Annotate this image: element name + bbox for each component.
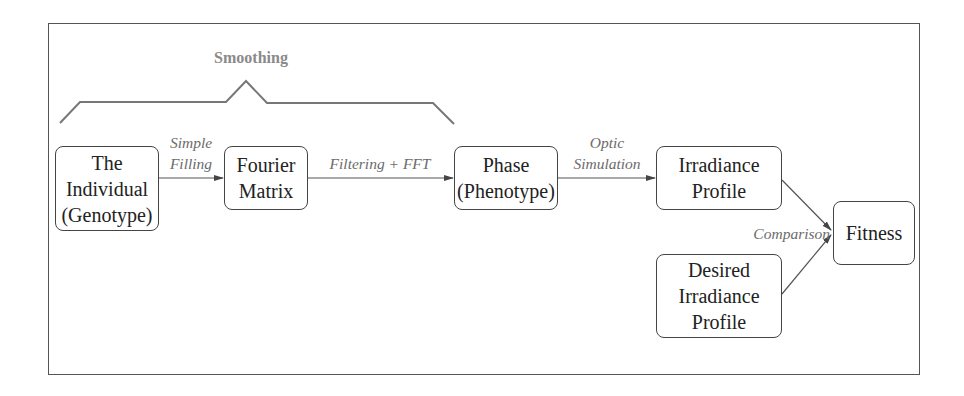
edge-label-optic: Optic bbox=[560, 132, 654, 153]
edge-label-filtering-fft: Filtering + FFT bbox=[316, 153, 444, 174]
node-individual-line1: The bbox=[91, 150, 122, 176]
node-individual-line2: Individual bbox=[66, 176, 148, 202]
edge-label-simulation: Simulation bbox=[560, 153, 654, 174]
node-phase-line2: (Phenotype) bbox=[457, 178, 555, 204]
smoothing-brace bbox=[60, 81, 454, 124]
node-desired-line2: Irradiance bbox=[678, 283, 759, 309]
node-desired-irradiance-profile: Desired Irradiance Profile bbox=[656, 254, 782, 338]
edge-label-filling: Filling bbox=[160, 153, 222, 174]
node-fitness-line1: Fitness bbox=[846, 220, 903, 246]
node-individual: The Individual (Genotype) bbox=[55, 146, 159, 231]
smoothing-label: Smoothing bbox=[196, 49, 306, 67]
edge-label-simple: Simple bbox=[160, 132, 222, 153]
node-phase: Phase (Phenotype) bbox=[454, 146, 558, 210]
node-individual-line3: (Genotype) bbox=[61, 202, 152, 228]
node-irradiance-profile: Irradiance Profile bbox=[656, 146, 782, 210]
node-irradiance-line1: Irradiance bbox=[678, 152, 759, 178]
node-desired-line1: Desired bbox=[688, 257, 750, 283]
node-desired-line3: Profile bbox=[692, 309, 746, 335]
node-fourier-line2: Matrix bbox=[239, 178, 293, 204]
edge-label-comparison: Comparison bbox=[734, 223, 830, 244]
node-irradiance-line2: Profile bbox=[692, 178, 746, 204]
edge-label-simple-filling: Simple Filling bbox=[160, 132, 222, 174]
node-phase-line1: Phase bbox=[483, 152, 530, 178]
node-fourier-line1: Fourier bbox=[237, 152, 296, 178]
node-fitness: Fitness bbox=[833, 201, 915, 265]
edge-label-optic-simulation: Optic Simulation bbox=[560, 132, 654, 174]
node-fourier-matrix: Fourier Matrix bbox=[224, 146, 308, 210]
